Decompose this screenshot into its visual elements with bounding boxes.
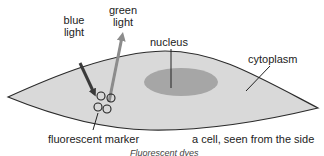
blue-light-label: blue light bbox=[60, 14, 88, 38]
fluorescent-marker-label: fluorescent marker bbox=[48, 133, 139, 145]
green-light-label-line2: light bbox=[108, 16, 138, 28]
cell-diagram: blue light green light nucleus cytoplasm… bbox=[0, 0, 324, 156]
nucleus-label: nucleus bbox=[150, 36, 188, 48]
green-light-label-line1: green bbox=[108, 4, 138, 16]
cell-side-label: a cell, seen from the side bbox=[192, 133, 314, 145]
blue-light-label-line2: light bbox=[60, 26, 88, 38]
cytoplasm-label: cytoplasm bbox=[248, 53, 298, 65]
blue-light-label-line1: blue bbox=[60, 14, 88, 26]
nucleus-shape bbox=[144, 68, 218, 96]
green-light-label: green light bbox=[108, 4, 138, 28]
figure-caption: Fluorescent dyes bbox=[130, 148, 199, 156]
